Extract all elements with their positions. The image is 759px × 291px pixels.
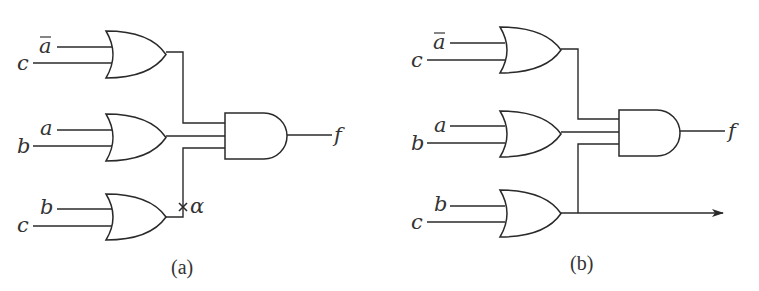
- label-c: c: [17, 213, 29, 237]
- label-b: b: [17, 134, 30, 158]
- label-output-f: f: [726, 119, 739, 143]
- label-b: b: [434, 192, 447, 216]
- logic-circuit-figure: a c a b b c f α (a) a c: [0, 0, 759, 291]
- label-a: a: [434, 113, 447, 137]
- caption-a: (a): [171, 256, 193, 279]
- panel-a: a c a b b c f α (a): [17, 31, 345, 279]
- wire-or3-to-and: [578, 144, 619, 213]
- label-b: b: [411, 131, 424, 155]
- panel-b: a c a b b c f (b): [411, 27, 739, 275]
- and-gate: [619, 110, 680, 156]
- or-gate-1: [500, 27, 561, 73]
- or-gate-3: [500, 190, 561, 237]
- label-b: b: [40, 195, 53, 219]
- label-c: c: [17, 51, 29, 75]
- label-fault-alpha: α: [190, 194, 204, 218]
- or-gate-3: [106, 194, 166, 240]
- caption-b: (b): [570, 252, 593, 275]
- or-gate-1: [106, 31, 166, 78]
- label-c: c: [411, 48, 423, 72]
- wire-or1-to-and: [166, 52, 225, 123]
- or-gate-2: [500, 111, 561, 157]
- label-c: c: [411, 210, 423, 234]
- label-a: a: [40, 116, 53, 140]
- and-gate: [225, 113, 287, 159]
- wire-or1-to-and: [561, 49, 619, 119]
- or-gate-2: [106, 114, 166, 161]
- label-output-f: f: [332, 123, 345, 147]
